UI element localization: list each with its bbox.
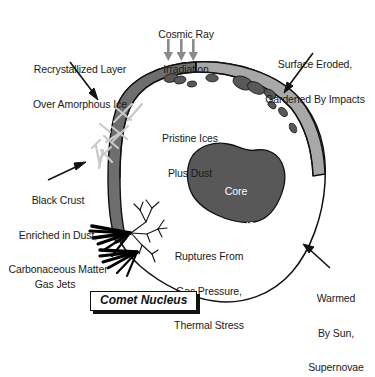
pointer-arrow-icon — [303, 244, 330, 268]
label-ruptures-line3: Thermal Stress — [163, 320, 255, 332]
label-pristine-ices-line1: Pristine Ices — [145, 133, 235, 145]
label-recrystallized-layer-line1: Recrystallized Layer — [16, 64, 144, 76]
label-warmed-by-sun-line3: Supernovae — [300, 362, 372, 374]
label-cosmic-ray-line1: Cosmic Ray — [140, 29, 232, 41]
label-cosmic-ray-line2: Irradiation — [140, 64, 232, 76]
label-surface-eroded-line1: Surface Eroded, — [255, 59, 375, 71]
label-warmed-by-sun: Warmed By Sun, Supernovae — [300, 270, 372, 377]
label-recrystallized-layer-line2: Over Amorphous Ice — [16, 99, 144, 111]
label-gas-jets: Gas Jets — [22, 256, 88, 314]
label-warmed-by-sun-line2: By Sun, — [300, 328, 372, 340]
label-cosmic-ray: Cosmic Ray Irradiation — [140, 6, 232, 98]
label-black-crust-line2: Enriched in Dust, — [0, 230, 116, 242]
label-recrystallized-layer: Recrystallized Layer Over Amorphous Ice — [16, 41, 144, 133]
label-warmed-by-sun-line1: Warmed — [300, 293, 372, 305]
label-black-crust-line1: Black Crust — [0, 195, 116, 207]
label-surface-eroded: Surface Eroded, Gardened By Impacts — [255, 36, 375, 128]
label-ruptures-line1: Ruptures From — [163, 251, 255, 263]
label-core-line1: Core — [186, 186, 286, 198]
label-surface-eroded-line2: Gardened By Impacts — [255, 94, 375, 106]
figure-title-box: Comet Nucleus — [90, 291, 197, 311]
figure-title: Comet Nucleus — [100, 294, 187, 307]
ice-crack-icon — [96, 146, 100, 166]
label-gas-jets-line1: Gas Jets — [22, 279, 88, 291]
